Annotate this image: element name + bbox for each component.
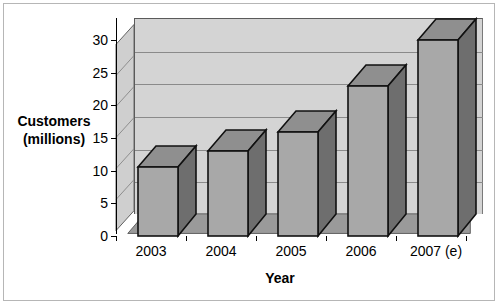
y-axis-title: Customers (millions) [8, 113, 100, 148]
y-axis-tick-labels: 0 5 10 15 20 25 30 [0, 0, 108, 305]
x-tick-label-2007e: 2007 (e) [396, 243, 476, 259]
x-tick-5 [466, 236, 467, 241]
y-tick-10 [111, 171, 116, 172]
x-axis-title: Year [220, 270, 340, 286]
y-tick-label-25: 25 [4, 66, 108, 80]
bar-2006[interactable] [348, 18, 388, 236]
y-axis-line [116, 18, 117, 234]
x-tick-2 [256, 236, 257, 241]
y-axis-title-line1: Customers [8, 113, 100, 131]
bar-2004[interactable] [208, 18, 248, 236]
y-tick-15 [111, 138, 116, 139]
x-tick-label-2004: 2004 [186, 243, 256, 259]
x-tick-1 [186, 236, 187, 241]
y-tick-label-0: 0 [4, 229, 108, 243]
y-axis-title-line2: (millions) [8, 131, 100, 149]
x-tick-label-2006: 2006 [326, 243, 396, 259]
x-tick-3 [326, 236, 327, 241]
y-tick-label-20: 20 [4, 98, 108, 112]
x-tick-0 [116, 236, 117, 241]
y-tick-25 [111, 73, 116, 74]
bar-2007e[interactable] [418, 18, 458, 236]
y-tick-label-30: 30 [4, 33, 108, 47]
y-tick-5 [111, 203, 116, 204]
x-tick-label-2005: 2005 [256, 243, 326, 259]
y-tick-label-5: 5 [4, 196, 108, 210]
chart-figure: 0 5 10 15 20 25 30 Customers (millions) … [0, 0, 499, 305]
y-tick-20 [111, 105, 116, 106]
plot-area [116, 18, 483, 238]
x-tick-label-2003: 2003 [116, 243, 186, 259]
y-tick-30 [111, 40, 116, 41]
bar-2003[interactable] [138, 18, 178, 236]
bar-2005[interactable] [278, 18, 318, 236]
y-tick-label-10: 10 [4, 164, 108, 178]
x-tick-4 [396, 236, 397, 241]
